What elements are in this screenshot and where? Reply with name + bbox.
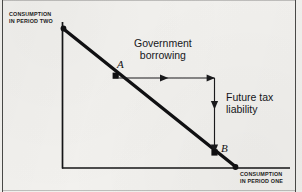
marked-points [113,73,218,156]
frame-border-left [2,0,3,192]
x-axis-label: CONSUMPTION IN PERIOD ONE [240,171,283,186]
government-borrowing-arrow [119,74,215,81]
point-b-marker [211,149,217,155]
government-borrowing-end-arrowhead [207,74,215,81]
point-a-label: A [117,58,124,70]
x-axis-label-line-2: IN PERIOD ONE [240,178,283,185]
future-tax-liability-annotation: Future tax liability [226,92,273,115]
future-tax-liability-arrow [211,78,218,153]
constraint-endpoint-top [61,26,67,32]
government-borrowing-line-2: borrowing [134,50,192,62]
government-borrowing-annotation: Government borrowing [134,38,192,61]
y-axis-label-line-1: CONSUMPTION [9,11,53,18]
frame-border-right [295,0,296,192]
x-axis-label-line-1: CONSUMPTION [240,171,283,178]
y-axis-label-line-2: IN PERIOD TWO [9,18,53,25]
y-axis-label: CONSUMPTION IN PERIOD TWO [9,11,53,26]
point-a-marker [113,73,119,79]
future-tax-liability-line-1: Future tax [226,92,273,104]
frame-border-top [2,0,296,1]
future-tax-liability-line-2: liability [226,104,273,116]
government-borrowing-mid-arrowhead [160,74,168,81]
constraint-endpoint-bottom [233,164,239,170]
frame-border-bottom [2,190,296,191]
government-borrowing-line-1: Government [134,38,192,50]
figure-container: CONSUMPTION IN PERIOD TWO CONSUMPTION IN… [0,0,302,192]
future-tax-liability-mid-arrowhead [211,101,218,109]
point-b-label: B [221,142,228,154]
